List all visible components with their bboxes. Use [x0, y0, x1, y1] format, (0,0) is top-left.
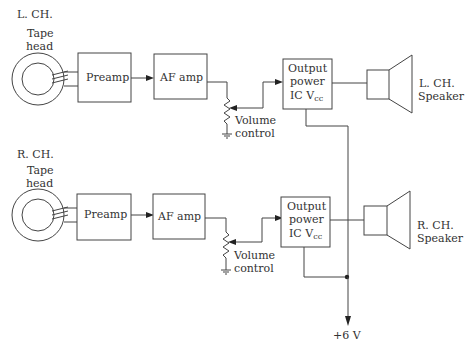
right-af-amp-label: AF amp	[157, 210, 201, 223]
right-output-ic-label-2: power	[289, 213, 325, 226]
right-channel: R. CH. Tape head Preamp AF amp Volume	[12, 148, 464, 277]
right-tape-head-label: Tape	[27, 164, 54, 177]
left-volume-label-2: control	[235, 127, 275, 140]
right-volume-label-2: control	[234, 262, 274, 275]
right-speaker-label: R. CH.	[417, 219, 454, 232]
left-preamp-block: Preamp	[78, 53, 131, 102]
right-tape-head-icon	[12, 189, 78, 241]
stereo-block-diagram: L. CH. Tape head Preamp AF amp Vo	[0, 0, 468, 346]
right-preamp-label: Preamp	[84, 208, 127, 221]
left-output-ic-block: Output power IC Vcc	[283, 59, 332, 109]
junction-dot	[345, 275, 349, 279]
left-tape-head-label: Tape	[27, 27, 54, 40]
right-channel-label: R. CH.	[17, 148, 54, 161]
left-volume-label: Volume	[234, 114, 276, 127]
left-preamp-label: Preamp	[86, 71, 129, 84]
right-speaker-icon	[364, 191, 410, 249]
arrow-down-icon	[345, 316, 351, 326]
left-af-amp-label: AF amp	[159, 71, 203, 84]
left-tape-head-label-2: head	[26, 40, 53, 53]
supply-voltage-label: +6 V	[333, 329, 362, 342]
left-speaker-label-2: Speaker	[418, 90, 465, 103]
right-volume-label: Volume	[233, 249, 275, 262]
left-af-amp-block: AF amp	[154, 54, 207, 99]
left-speaker-label: L. CH.	[419, 77, 455, 90]
right-output-ic-block: Output power IC Vcc	[281, 197, 330, 247]
left-output-ic-label-2: power	[290, 75, 326, 88]
left-channel-label: L. CH.	[17, 8, 53, 21]
left-speaker-icon	[367, 55, 412, 113]
left-output-ic-label: Output	[288, 62, 328, 75]
right-preamp-block: Preamp	[77, 194, 131, 240]
right-output-ic-label: Output	[287, 200, 327, 213]
right-af-amp-block: AF amp	[153, 194, 205, 239]
power-supply-rail: +6 V	[333, 275, 362, 342]
left-tape-head-icon	[12, 53, 78, 105]
right-speaker-label-2: Speaker	[417, 232, 464, 245]
right-tape-head-label-2: head	[26, 177, 53, 190]
arrow-icon	[146, 75, 154, 81]
